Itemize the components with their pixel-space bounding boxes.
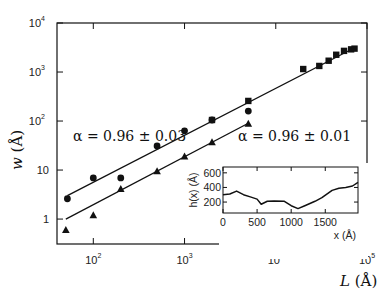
circle-marker — [64, 195, 71, 202]
square-marker — [300, 66, 306, 72]
triangle-marker — [153, 167, 161, 174]
triangle-marker — [90, 211, 98, 218]
circle-marker — [90, 175, 97, 182]
fit-label-upper: α = 0.96 ± 0.03 — [73, 128, 186, 144]
inset-x-axis-title: x (Å) — [334, 229, 356, 241]
inset-y-axis-title: h(x) (Å) — [187, 173, 199, 208]
triangle-marker — [62, 226, 70, 233]
inset-plot: 050010001500200400600x (Å)h(x) (Å) — [187, 163, 368, 259]
y-axis-title: w (Å) — [8, 130, 26, 170]
square-marker — [351, 45, 357, 51]
inset-x-tick-label: 1000 — [280, 216, 304, 228]
circle-marker — [117, 175, 124, 182]
inset-x-tick-label: 500 — [248, 216, 266, 228]
inset-x-tick-label: 1500 — [314, 216, 338, 228]
inset-y-tick-label: 400 — [203, 181, 221, 193]
inset-x-tick-label: 0 — [220, 216, 226, 228]
x-tick-label: 102 — [85, 252, 101, 266]
y-tick-label: 10 — [37, 164, 49, 176]
loglog-chart: 102103104105110102103104α = 0.96 ± 0.03α… — [0, 0, 382, 296]
y-tick-label: 1 — [43, 213, 49, 225]
triangle-marker — [245, 120, 253, 127]
y-tick-label: 104 — [29, 15, 45, 29]
y-tick-label: 102 — [29, 113, 45, 127]
inset-y-tick-label: 200 — [203, 196, 221, 208]
square-marker — [341, 48, 347, 54]
square-marker — [209, 117, 215, 123]
square-marker — [333, 52, 339, 58]
circle-marker — [245, 108, 252, 115]
square-marker — [245, 98, 251, 104]
fit-label-lower: α = 0.96 ± 0.01 — [238, 128, 351, 144]
inset-y-tick-label: 600 — [203, 167, 221, 179]
x-tick-label: 103 — [176, 252, 192, 266]
x-axis-title: L (Å) — [339, 272, 377, 290]
square-marker — [316, 63, 322, 69]
square-marker — [325, 58, 331, 64]
y-tick-label: 103 — [29, 64, 45, 78]
triangle-marker — [208, 138, 216, 145]
